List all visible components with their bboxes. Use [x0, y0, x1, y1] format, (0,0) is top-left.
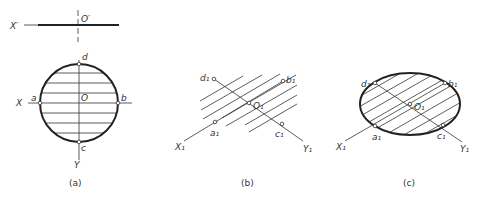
point-a1: [213, 120, 217, 124]
label-y: Y: [74, 160, 81, 170]
point-a1: [373, 124, 377, 128]
label-c1: c₁: [275, 129, 284, 139]
panel-b: d₁ b₁ O₁ a₁ c₁ X₁ Y₁ (b): [174, 73, 312, 188]
point-d1: [373, 81, 377, 85]
label-a: a: [31, 93, 37, 103]
label-o-prime: O′: [81, 14, 90, 24]
label-o1: O₁: [253, 101, 264, 111]
point-a: [38, 101, 42, 105]
label-o: O: [81, 93, 88, 103]
label-o1: O₁: [414, 102, 425, 112]
label-b1: b₁: [448, 79, 458, 89]
label-x-prime: X′: [9, 21, 18, 31]
label-d: d: [82, 52, 88, 62]
label-a1: a₁: [210, 128, 220, 138]
point-c1: [441, 123, 445, 127]
label-d1: d₁: [361, 79, 371, 89]
label-b1: b₁: [286, 75, 296, 85]
diagram-canvas: X′ O′ X a b O d c Y (a): [0, 0, 479, 202]
label-y1: Y₁: [303, 144, 312, 154]
caption-b: (b): [241, 178, 254, 188]
label-x: X: [15, 98, 23, 108]
label-c1: c₁: [437, 131, 446, 141]
point-o1: [408, 102, 412, 106]
point-d: [77, 62, 81, 66]
point-b1: [281, 79, 285, 83]
x1-axis: [184, 81, 283, 141]
point-b: [116, 101, 120, 105]
label-y1: Y₁: [460, 144, 469, 154]
label-x1: X₁: [335, 142, 346, 152]
label-x1: X₁: [174, 142, 185, 152]
y1-axis: [375, 83, 462, 142]
label-d1: d₁: [200, 73, 210, 83]
point-c1: [280, 122, 284, 126]
point-b1: [443, 81, 447, 85]
point-d1: [212, 77, 216, 81]
panel-a: X′ O′ X a b O d c Y (a): [9, 10, 132, 188]
label-a1: a₁: [372, 132, 382, 142]
label-b: b: [121, 93, 127, 103]
panel-c: d₁ b₁ O₁ a₁ c₁ X₁ Y₁ (c): [335, 61, 470, 188]
label-c: c: [81, 143, 86, 153]
point-o1: [247, 101, 251, 105]
caption-a: (a): [69, 178, 82, 188]
caption-c: (c): [403, 178, 415, 188]
